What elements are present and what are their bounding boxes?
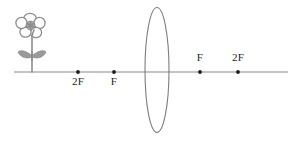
label-left-f: F [111, 76, 117, 87]
focal-dot-right-f [198, 70, 202, 74]
focal-dot-left-f [112, 70, 116, 74]
focal-dot-left-2f [76, 70, 80, 74]
converging-lens-ellipse [145, 8, 169, 133]
focal-dot-right-2f [236, 70, 240, 74]
lens-diagram-canvas: 2F F F 2F [0, 0, 298, 142]
flower-leaf-right [32, 51, 46, 58]
flower-leaf-left [18, 51, 32, 58]
flower-petal-5 [16, 17, 27, 28]
label-left-2f: 2F [72, 76, 84, 87]
label-right-f: F [197, 52, 203, 63]
label-right-2f: 2F [232, 52, 244, 63]
optics-diagram [0, 0, 298, 142]
